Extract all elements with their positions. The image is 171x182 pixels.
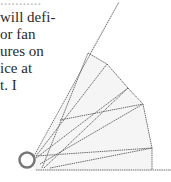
pivot-circle xyxy=(20,153,35,168)
fan-diagram xyxy=(0,0,171,182)
